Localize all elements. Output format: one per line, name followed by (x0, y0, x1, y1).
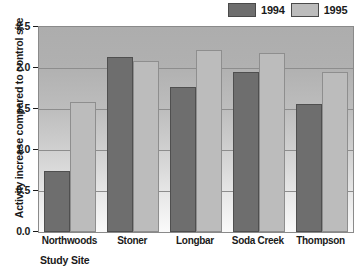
plot-area (38, 26, 354, 233)
bar-thompson-1994 (296, 104, 322, 232)
x-axis-title: Study Site (40, 254, 89, 266)
y-axis-title: Activity increase compared to control si… (13, 13, 25, 223)
legend-swatch-1994 (228, 3, 256, 17)
bar-group (44, 27, 96, 232)
legend-swatch-1995 (291, 3, 319, 17)
x-axis-tick-label: Stoner (102, 235, 162, 246)
bar-northwoods-1995 (70, 102, 96, 232)
bar-group (170, 27, 222, 232)
x-axis-tick-label: Northwoods (39, 235, 99, 246)
legend-label-1995: 1995 (324, 3, 348, 17)
bar-group (233, 27, 285, 232)
bar-stoner-1994 (107, 57, 133, 232)
x-axis-tick-label: Soda Creek (228, 235, 288, 246)
bars-container (39, 27, 353, 232)
x-axis-tick-labels: NorthwoodsStonerLongbarSoda CreekThompso… (38, 235, 352, 246)
bar-northwoods-1994 (44, 171, 70, 232)
x-axis-tick-label: Longbar (165, 235, 225, 246)
legend-label-1994: 1994 (261, 3, 285, 17)
bar-stoner-1995 (133, 61, 159, 232)
bar-group (296, 27, 348, 232)
legend-entry-1994: 1994 (228, 3, 285, 17)
bar-longbar-1994 (170, 87, 196, 232)
bar-soda-creek-1995 (259, 53, 285, 232)
bar-chart-figure: 1994 1995 Activity increase compared to … (0, 0, 364, 276)
bar-thompson-1995 (322, 72, 348, 232)
legend-entry-1995: 1995 (291, 3, 348, 17)
y-axis-tick-label: 0.0 (16, 225, 30, 237)
bar-group (107, 27, 159, 232)
bar-longbar-1995 (196, 50, 222, 232)
x-axis-tick-label: Thompson (291, 235, 351, 246)
y-axis-tick: 0.0 (0, 225, 38, 237)
chart-legend: 1994 1995 (228, 2, 347, 18)
bar-soda-creek-1994 (233, 72, 259, 232)
